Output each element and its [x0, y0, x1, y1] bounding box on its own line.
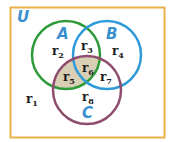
venn-diagram: U A B C r1 r2 r3 r4 r5 r6 r7 r8 — [0, 0, 172, 142]
universe-label: U — [17, 8, 29, 26]
set-c-label: C — [82, 104, 93, 122]
set-b-label: B — [106, 25, 117, 43]
set-a-label: A — [56, 25, 69, 43]
